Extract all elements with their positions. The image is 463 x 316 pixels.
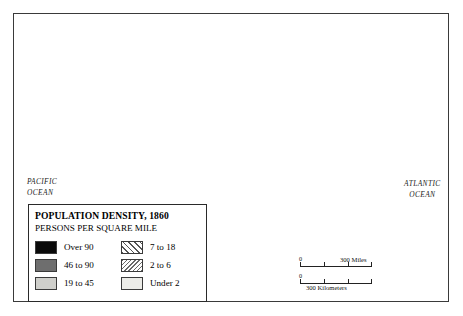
legend-label-2to6: 2 to 6: [150, 260, 171, 270]
atlantic-ocean-line2: OCEAN: [404, 189, 441, 200]
legend-subtitle: PERSONS PER SQUARE MILE: [35, 222, 200, 234]
atlantic-ocean-label: ATLANTIC OCEAN: [404, 178, 441, 200]
legend-item-over90: Over 90: [35, 238, 121, 256]
scale-kilometers-label: 300 Kilometers: [306, 284, 347, 291]
scale-bars: 0 300 Miles 0 300 Kilometers: [300, 258, 410, 292]
scale-bar-miles: 0 300 Miles: [300, 258, 410, 275]
scale-miles-tick-1: [324, 262, 325, 267]
scale-kilometers-zero: 0: [299, 272, 302, 279]
scale-kilometers-tick-2: [348, 279, 349, 284]
scale-bar-kilometers: 0 300 Kilometers: [300, 275, 410, 292]
legend-swatch-grid: Over 90 46 to 90 19 to 45 7 to 18: [35, 238, 200, 292]
legend-box: POPULATION DENSITY, 1860 PERSONS PER SQU…: [28, 204, 207, 302]
legend-label-7to18: 7 to 18: [150, 242, 175, 252]
atlantic-ocean-line1: ATLANTIC: [404, 178, 441, 189]
legend-title: POPULATION DENSITY, 1860: [35, 210, 200, 222]
legend-item-19to45: 19 to 45: [35, 274, 121, 292]
legend-item-46to90: 46 to 90: [35, 256, 121, 274]
legend-swatch-46to90: [35, 259, 57, 272]
map-page: PACIFIC OCEAN ATLANTIC OCEAN POPULATION …: [0, 0, 463, 316]
legend-swatch-7to18: [121, 241, 143, 254]
legend-swatch-19to45: [35, 277, 57, 290]
pacific-ocean-line2: OCEAN: [27, 187, 57, 198]
legend-column-left: Over 90 46 to 90 19 to 45: [35, 238, 121, 292]
pacific-ocean-line1: PACIFIC: [27, 176, 57, 187]
legend-swatch-2to6: [121, 259, 143, 272]
legend-item-under2: Under 2: [121, 274, 180, 292]
scale-miles-label: 300 Miles: [340, 256, 367, 263]
legend-column-right: 7 to 18 2 to 6 Under 2: [121, 238, 180, 292]
legend-label-46to90: 46 to 90: [64, 260, 94, 270]
legend-item-2to6: 2 to 6: [121, 256, 180, 274]
legend-swatch-under2: [121, 277, 143, 290]
legend-label-under2: Under 2: [150, 278, 180, 288]
pacific-ocean-label: PACIFIC OCEAN: [27, 176, 57, 198]
legend-swatch-over90: [35, 241, 57, 254]
scale-miles-zero: 0: [299, 255, 302, 262]
legend-label-19to45: 19 to 45: [64, 278, 94, 288]
legend-item-7to18: 7 to 18: [121, 238, 180, 256]
legend-label-over90: Over 90: [64, 242, 94, 252]
